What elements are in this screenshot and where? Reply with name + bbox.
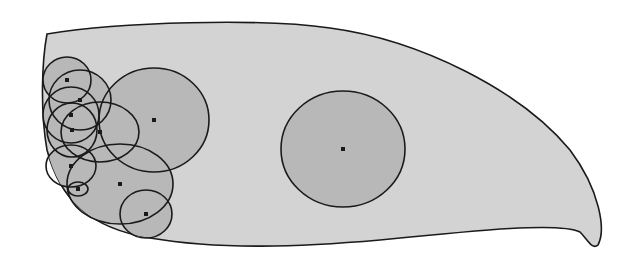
circle-coverage-diagram xyxy=(0,0,628,265)
circle-center-dot xyxy=(152,118,156,122)
circle-center-dot xyxy=(98,130,102,134)
circle-center-dot xyxy=(69,113,73,117)
circle-center-dot xyxy=(76,187,80,191)
circle-center-dot xyxy=(78,98,82,102)
circle-center-dot xyxy=(118,182,122,186)
circle-center-dot xyxy=(65,78,69,82)
circle-center-dot xyxy=(69,164,73,168)
circle-center-dot xyxy=(144,212,148,216)
circle-center-dot xyxy=(341,147,345,151)
circle-center-dot xyxy=(70,128,74,132)
